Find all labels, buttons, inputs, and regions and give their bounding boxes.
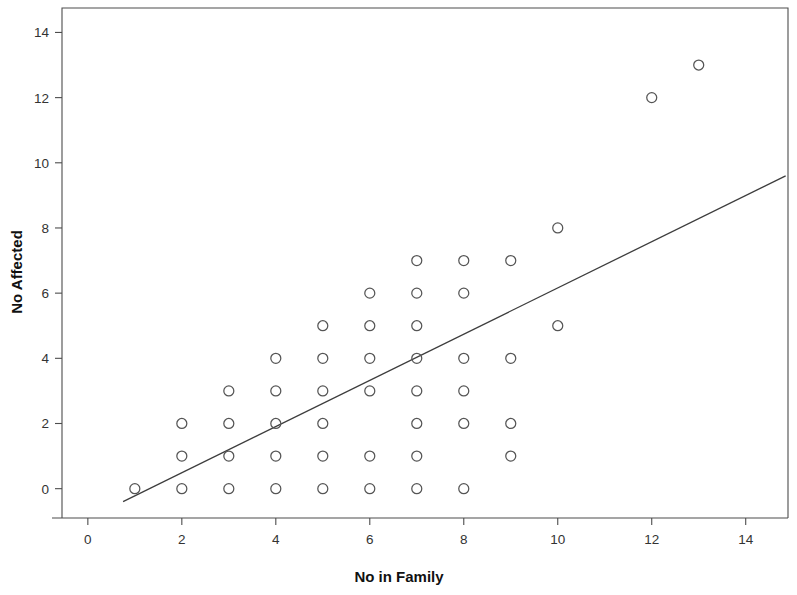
data-point <box>318 353 328 363</box>
x-tick-label: 2 <box>178 532 186 547</box>
data-point <box>412 321 422 331</box>
y-tick-label: 2 <box>41 416 49 431</box>
plot-border <box>62 8 788 518</box>
y-tick-label: 6 <box>41 286 49 301</box>
data-point <box>365 288 375 298</box>
plot-frame <box>52 8 788 518</box>
y-tick-label: 12 <box>34 91 49 106</box>
data-point <box>318 418 328 428</box>
data-point <box>459 256 469 266</box>
data-point <box>365 353 375 363</box>
data-point <box>553 223 563 233</box>
y-tick-label: 4 <box>41 351 49 366</box>
data-point <box>318 321 328 331</box>
data-point <box>224 418 234 428</box>
data-point <box>318 484 328 494</box>
data-point <box>318 451 328 461</box>
x-axis-ticks: 02468101214 <box>84 518 754 547</box>
y-tick-label: 14 <box>34 25 50 40</box>
y-tick-label: 0 <box>41 482 49 497</box>
data-point <box>412 288 422 298</box>
data-point <box>459 288 469 298</box>
data-point <box>271 353 281 363</box>
y-axis-title: No Affected <box>8 230 25 314</box>
data-point <box>412 386 422 396</box>
y-tick-label: 8 <box>41 221 49 236</box>
y-tick-label: 10 <box>34 156 49 171</box>
data-point <box>177 451 187 461</box>
data-point <box>318 386 328 396</box>
data-point <box>177 484 187 494</box>
data-point <box>412 451 422 461</box>
data-point <box>553 321 563 331</box>
data-point <box>365 321 375 331</box>
data-point <box>177 418 187 428</box>
data-point <box>506 353 516 363</box>
x-tick-label: 10 <box>550 532 565 547</box>
x-tick-label: 0 <box>84 532 92 547</box>
data-point <box>130 484 140 494</box>
data-point <box>459 386 469 396</box>
data-point <box>412 418 422 428</box>
data-point <box>271 386 281 396</box>
data-point <box>224 386 234 396</box>
data-point <box>694 60 704 70</box>
x-tick-label: 4 <box>272 532 280 547</box>
data-point <box>271 484 281 494</box>
regression-line <box>123 176 786 502</box>
x-tick-label: 14 <box>738 532 754 547</box>
data-point <box>459 418 469 428</box>
scatter-plot-figure: 02468101214 02468101214 No in Family No … <box>0 0 797 595</box>
fit-line <box>123 176 786 502</box>
x-tick-label: 8 <box>460 532 468 547</box>
data-point <box>365 386 375 396</box>
data-point <box>459 484 469 494</box>
data-point <box>647 93 657 103</box>
data-point <box>365 484 375 494</box>
y-axis-ticks: 02468101214 <box>34 25 62 496</box>
data-points <box>130 60 704 494</box>
data-point <box>506 418 516 428</box>
data-point <box>412 484 422 494</box>
x-tick-label: 12 <box>644 532 659 547</box>
x-tick-label: 6 <box>366 532 374 547</box>
data-point <box>459 353 469 363</box>
data-point <box>224 484 234 494</box>
data-point <box>506 256 516 266</box>
data-point <box>506 451 516 461</box>
x-axis-title: No in Family <box>354 568 444 585</box>
plot-canvas: 02468101214 02468101214 No in Family No … <box>0 0 797 595</box>
data-point <box>365 451 375 461</box>
data-point <box>412 256 422 266</box>
data-point <box>224 451 234 461</box>
data-point <box>271 451 281 461</box>
